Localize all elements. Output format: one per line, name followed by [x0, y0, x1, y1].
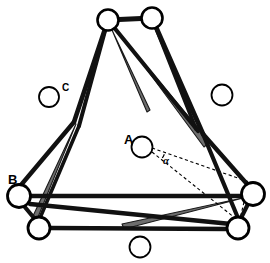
- atom-fc: [39, 87, 59, 107]
- atom-label-c: C: [62, 82, 69, 93]
- bond-13: [49, 228, 228, 229]
- atom-t1: [98, 10, 119, 31]
- atom-label-b: B: [8, 172, 17, 187]
- atom-label-a: A: [124, 132, 134, 147]
- atom-t2: [142, 8, 163, 29]
- atom-br1: [242, 183, 265, 206]
- atom-bl2: [28, 217, 50, 239]
- atom-br2: [227, 217, 249, 239]
- angle-label-alpha: α: [163, 154, 170, 166]
- structure-diagram-figure: ABCα: [0, 0, 270, 263]
- atom-bl1: [8, 185, 31, 208]
- atom-fr: [212, 85, 233, 106]
- atom-fa: [132, 137, 153, 158]
- atom-fb: [130, 237, 151, 258]
- structure-diagram-canvas: ABCα: [0, 0, 270, 263]
